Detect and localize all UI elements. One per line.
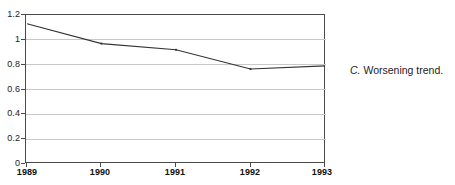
x-tick-label-1993: 1993 <box>312 168 332 177</box>
line-chart: 1.2 1 0.8 0.6 0.4 0.2 0 1989 1990 1991 1… <box>0 0 340 185</box>
x-axis: 1989 1990 1991 1992 1993 <box>0 0 340 185</box>
figure-caption: C. Worsening trend. <box>350 63 443 77</box>
x-tick-label-1990: 1990 <box>90 168 110 177</box>
x-tick-label-1989: 1989 <box>17 168 37 177</box>
figure-panel: 1.2 1 0.8 0.6 0.4 0.2 0 1989 1990 1991 1… <box>0 0 455 185</box>
caption-letter: C. <box>350 64 361 76</box>
x-tick-label-1991: 1991 <box>165 168 185 177</box>
caption-text: Worsening trend. <box>363 64 443 76</box>
x-tick-label-1992: 1992 <box>240 168 260 177</box>
